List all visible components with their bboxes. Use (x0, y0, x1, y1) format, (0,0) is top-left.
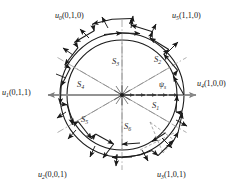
sector-label-S1: S1 (152, 100, 159, 111)
vector-label-u4: u4(1,0,0) (197, 79, 226, 89)
flux-label-psi-s: ψs (159, 80, 166, 90)
vector-label-u0: u0(0,1,0) (55, 11, 84, 21)
vector-u0-bits: (0,1,0) (62, 11, 84, 20)
sector-S2-index: 2 (158, 59, 161, 65)
vector-u5-bits: (1,1,0) (179, 11, 201, 20)
diagram-canvas (0, 0, 246, 192)
sector-S3-index: 3 (116, 61, 119, 67)
space-vector-diagram: u0(0,1,0) u5(1,1,0) u1(0,1,1) u4(1,0,0) … (0, 0, 246, 192)
psi-index: s (164, 84, 166, 90)
vector-u2-bits: (0,0,1) (45, 170, 67, 179)
sector-S4-index: 4 (81, 84, 84, 90)
outward-vector-ticks (56, 16, 187, 166)
sector-label-S5: S5 (81, 114, 88, 125)
sector-label-S6: S6 (124, 121, 131, 132)
vector-label-u5: u5(1,1,0) (172, 11, 201, 21)
vector-u1-bits: (0,1,1) (9, 88, 31, 97)
sector-S5-index: 5 (85, 119, 88, 125)
sector-label-S2: S2 (154, 54, 161, 65)
vector-label-u1: u1(0,1,1) (2, 88, 31, 98)
vector-u4-bits: (1,0,0) (204, 79, 226, 88)
vector-label-u2: u2(0,0,1) (38, 170, 67, 180)
sector-S1-index: 1 (156, 105, 159, 111)
vector-u3-bits: (1,0,1) (164, 170, 186, 179)
sector-label-S3: S3 (112, 56, 119, 67)
sector-label-S4: S4 (77, 79, 84, 90)
sector-S6-index: 6 (128, 126, 131, 132)
vector-label-u3: u3(1,0,1) (157, 170, 186, 180)
